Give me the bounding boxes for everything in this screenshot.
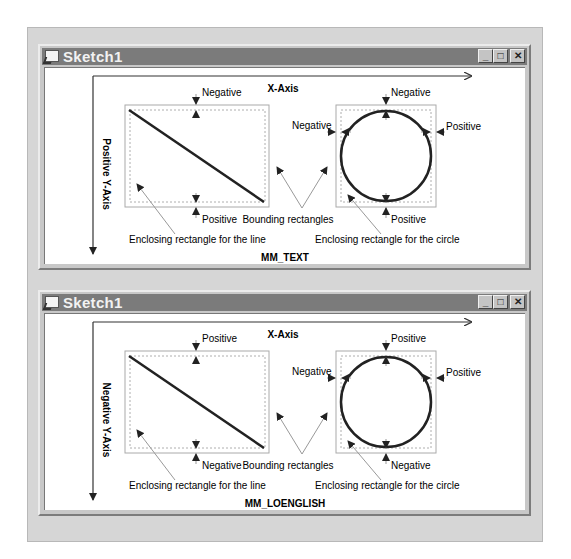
circle-bottom-label: Negative <box>391 460 431 471</box>
circle-right-label: Positive <box>446 367 481 378</box>
enclosing-circle-label: Enclosing rectangle for the circle <box>315 234 460 245</box>
circle-bounding-rect <box>336 351 436 453</box>
enclosing-line-label: Enclosing rectangle for the line <box>129 480 266 491</box>
window-title: Sketch1 <box>63 48 123 65</box>
close-icon: ✕ <box>514 296 522 307</box>
circle-top-label: Positive <box>391 333 426 344</box>
line-top-label: Positive <box>202 333 237 344</box>
x-axis-label: X-Axis <box>267 83 299 94</box>
maximize-icon: □ <box>497 296 503 307</box>
close-button[interactable]: ✕ <box>510 295 525 309</box>
circle-shape <box>341 111 431 201</box>
close-button[interactable]: ✕ <box>510 49 525 63</box>
line-bottom-label: Positive <box>202 214 237 225</box>
mapping-mode-label: MM_LOENGLISH <box>245 498 326 509</box>
circle-left-label: Negative <box>292 120 332 131</box>
line-bottom-label: Negative <box>202 460 242 471</box>
bounding-rect-label: Bounding rectangles <box>242 460 333 471</box>
diagram-canvas: X-Axis Positive Y-Axis Negative Positive… <box>45 68 530 269</box>
title-bar[interactable]: Sketch1 _ □ ✕ <box>42 294 527 311</box>
minimize-button[interactable]: _ <box>478 295 493 309</box>
minimize-button[interactable]: _ <box>478 49 493 63</box>
circle-left-label: Negative <box>292 366 332 377</box>
document-icon[interactable] <box>45 296 59 308</box>
circle-bottom-label: Positive <box>391 214 426 225</box>
diagonal-line <box>129 110 264 202</box>
minimize-icon: _ <box>483 296 489 307</box>
circle-shape <box>341 357 431 447</box>
client-area[interactable]: X-Axis Positive Y-Axis Negative Positive… <box>44 67 525 264</box>
diagonal-line <box>129 356 264 448</box>
y-axis-label: Negative Y-Axis <box>101 383 112 458</box>
client-area[interactable]: X-Axis Negative Y-Axis Positive Negative… <box>44 313 525 510</box>
bounding-rect-label: Bounding rectangles <box>242 214 333 225</box>
circle-right-label: Positive <box>446 121 481 132</box>
maximize-button[interactable]: □ <box>493 49 508 63</box>
document-icon[interactable] <box>45 50 59 62</box>
sketch-window-mm-text[interactable]: Sketch1 _ □ ✕ X-Axis Positi <box>38 44 531 270</box>
enclosing-circle-label: Enclosing rectangle for the circle <box>315 480 460 491</box>
window-title: Sketch1 <box>63 294 123 311</box>
diagram-canvas: X-Axis Negative Y-Axis Positive Negative… <box>45 314 530 515</box>
x-axis-label: X-Axis <box>267 329 299 340</box>
maximize-button[interactable]: □ <box>493 295 508 309</box>
minimize-icon: _ <box>483 50 489 61</box>
sketch-window-mm-loenglish[interactable]: Sketch1 _ □ ✕ X-Axis Negative Y-Axis Pos… <box>38 290 531 516</box>
circle-top-label: Negative <box>391 87 431 98</box>
y-axis-label: Positive Y-Axis <box>101 138 112 210</box>
close-icon: ✕ <box>514 50 522 61</box>
enclosing-line-label: Enclosing rectangle for the line <box>129 234 266 245</box>
maximize-icon: □ <box>497 50 503 61</box>
line-top-label: Negative <box>202 87 242 98</box>
mapping-mode-label: MM_TEXT <box>261 252 309 263</box>
circle-bounding-rect <box>336 105 436 207</box>
title-bar[interactable]: Sketch1 _ □ ✕ <box>42 48 527 65</box>
